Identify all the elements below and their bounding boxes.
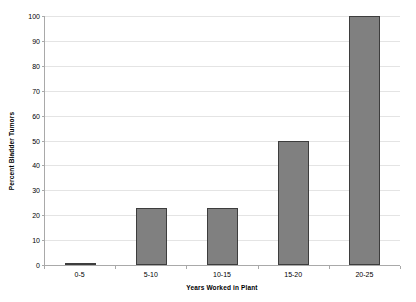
y-tick-label: 70	[14, 87, 40, 94]
y-tick-label: 90	[14, 37, 40, 44]
bar[interactable]	[278, 141, 309, 266]
y-tick-label: 40	[14, 162, 40, 169]
x-axis-tick-labels: 0-55-1010-1515-2020-25	[44, 269, 400, 281]
y-tick-label: 20	[14, 212, 40, 219]
y-tick-label: 100	[14, 13, 40, 20]
x-axis-title: Years Worked in Plant	[44, 284, 400, 291]
bar-slot	[45, 16, 116, 265]
x-tick-label: 10-15	[186, 269, 257, 281]
y-tick-label: 60	[14, 112, 40, 119]
bars-layer	[45, 16, 400, 265]
plot-area	[44, 16, 400, 265]
x-tick-mark	[400, 266, 401, 269]
bar-slot	[258, 16, 329, 265]
bar-slot	[329, 16, 400, 265]
y-tick-label: 0	[14, 262, 40, 269]
y-tick-label: 80	[14, 62, 40, 69]
bar-chart: Percent Bladder Tumors 01020304050607080…	[0, 0, 416, 302]
bar-slot	[116, 16, 187, 265]
x-tick-label: 20-25	[329, 269, 400, 281]
bar-slot	[187, 16, 258, 265]
y-axis-title: Percent Bladder Tumors	[0, 0, 22, 302]
bar[interactable]	[207, 208, 238, 265]
x-tick-label: 15-20	[258, 269, 329, 281]
y-tick-label: 30	[14, 187, 40, 194]
y-tick-label: 50	[14, 137, 40, 144]
bar[interactable]	[349, 16, 380, 265]
x-tick-label: 5-10	[115, 269, 186, 281]
bar[interactable]	[136, 208, 167, 265]
y-tick-label: 10	[14, 237, 40, 244]
x-tick-label: 0-5	[44, 269, 115, 281]
